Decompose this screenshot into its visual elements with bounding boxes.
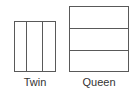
queen-panel-1 — [70, 7, 128, 29]
twin-panel-2 — [27, 22, 43, 71]
queen-bed-outline — [69, 6, 129, 72]
twin-bed-outline — [14, 21, 56, 72]
queen-panel-3 — [70, 51, 128, 71]
diagram-canvas: Twin Queen — [0, 0, 136, 96]
twin-panel-1 — [15, 22, 27, 71]
queen-label: Queen — [68, 76, 130, 89]
queen-panel-2 — [70, 29, 128, 51]
twin-label: Twin — [8, 76, 62, 89]
twin-panel-3 — [43, 22, 55, 71]
